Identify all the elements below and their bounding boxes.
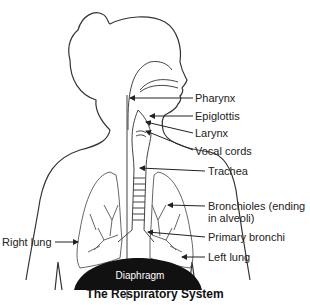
label-left-lung: Left lung <box>208 251 250 263</box>
nasal-cavity <box>128 61 178 130</box>
label-pharynx: Pharynx <box>195 92 235 104</box>
trachea <box>132 170 146 230</box>
leader-lines <box>55 98 205 257</box>
label-larynx: Larynx <box>195 127 228 139</box>
respiratory-system-diagram <box>0 0 310 305</box>
left-lung <box>150 172 193 268</box>
label-vocal-cords: Vocal cords <box>195 145 252 157</box>
label-bronchioles-1: Bronchioles (ending <box>208 200 305 212</box>
label-right-lung: Right lung <box>2 236 52 248</box>
right-lung <box>77 172 122 268</box>
label-diaphragm: Diaphragm <box>100 270 180 281</box>
label-primary-bronchi: Primary bronchi <box>208 231 285 243</box>
label-trachea: Trachea <box>208 165 248 177</box>
label-epiglottis: Epiglottis <box>195 110 240 122</box>
diagram-title: The Respiratory System <box>0 287 310 301</box>
label-bronchioles-2: in alveoli) <box>208 212 254 224</box>
